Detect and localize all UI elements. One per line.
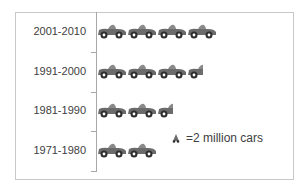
- axis-tick: [91, 171, 96, 172]
- car-icon: [127, 63, 157, 79]
- pictograph-row-2001-2010: [97, 21, 217, 39]
- car-icon: [157, 23, 187, 39]
- category-label-1971-1980: 1971-1980: [6, 144, 86, 157]
- axis-tick: [91, 131, 96, 132]
- category-label-1991-2000: 1991-2000: [6, 65, 86, 78]
- pictograph-row-1971-1980: [97, 140, 157, 158]
- half-car-icon: [157, 102, 173, 118]
- car-icon: [127, 23, 157, 39]
- car-icon: [127, 142, 157, 158]
- axis-tick: [91, 52, 96, 53]
- pictograph-row-1981-1990: [97, 100, 173, 118]
- category-label-1981-1990: 1981-1990: [6, 104, 86, 117]
- car-icon: [97, 142, 127, 158]
- axis-tick: [91, 92, 96, 93]
- category-label-2001-2010: 2001-2010: [6, 25, 86, 38]
- car-icon: [187, 23, 217, 39]
- car-icon: [127, 102, 157, 118]
- pictograph-row-1991-2000: [97, 61, 203, 79]
- legend: =2 million cars: [172, 131, 263, 145]
- half-car-icon: [187, 63, 203, 79]
- car-icon: [97, 23, 127, 39]
- car-icon: [97, 102, 127, 118]
- legend-text: =2 million cars: [186, 131, 263, 145]
- car-icon: [97, 63, 127, 79]
- car-icon: [172, 134, 180, 143]
- car-icon: [157, 63, 187, 79]
